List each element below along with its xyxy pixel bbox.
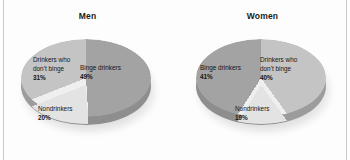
slice-label-binge-men: Binge drinkers 49% [80, 63, 121, 81]
pie-men [15, 33, 161, 137]
slice-label-binge-women: Binge drinkers 41% [200, 63, 241, 81]
slice-label-nonbinge-women: Drinkers who don't binge 40% [260, 55, 297, 82]
chart-title-men: Men [0, 11, 175, 21]
slice-label-nonbinge-men: Drinkers who don't binge 31% [33, 55, 70, 82]
chart-title-women: Women [175, 11, 350, 21]
slice-label-nondrinkers-men: Nondrinkers 20% [38, 104, 72, 122]
slice-label-nondrinkers-women: Nondrinkers 19% [235, 104, 269, 122]
chart-panel-men: Men Binge drinkers 49% Drinkers who don'… [0, 0, 175, 160]
pie-chart-figure: Men Binge drinkers 49% Drinkers who don'… [0, 0, 350, 160]
chart-panel-women: Women Binge drinkers 41% Drinkers who do… [175, 0, 350, 160]
